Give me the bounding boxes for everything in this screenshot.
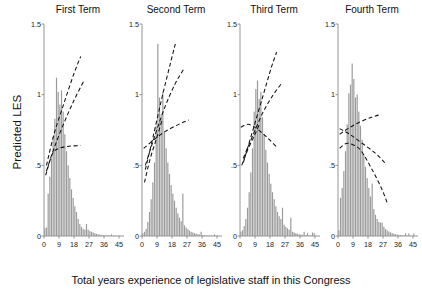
y-tick-label: 1	[126, 90, 139, 99]
x-tick-label: 9	[149, 240, 165, 249]
panel-title: Second Term	[128, 4, 224, 15]
y-tick-label: .5	[126, 161, 139, 170]
x-tick-label: 45	[111, 240, 127, 249]
x-tick-label: 9	[51, 240, 67, 249]
x-axis-label: Total years experience of legislative st…	[0, 274, 422, 286]
panel-title: First Term	[30, 4, 126, 15]
x-tick-label: 18	[66, 240, 82, 249]
x-tick-label: 0	[134, 240, 150, 249]
panel-first-term: First Term 09182736450.511.5	[30, 18, 126, 258]
y-tick-label: 1.5	[224, 20, 237, 29]
x-tick-label: 27	[179, 240, 195, 249]
y-tick-label: .5	[322, 161, 335, 170]
x-tick-label: 0	[330, 240, 346, 249]
x-tick-label: 36	[96, 240, 112, 249]
effect-line-lower-bound	[144, 120, 189, 148]
y-tick-label: 1	[322, 90, 335, 99]
histogram-bars	[44, 78, 120, 236]
x-tick-label: 36	[292, 240, 308, 249]
x-tick-label: 36	[390, 240, 406, 249]
panel-title: Third Term	[226, 4, 322, 15]
x-tick-label: 27	[81, 240, 97, 249]
y-tick-label: 0	[126, 232, 139, 241]
x-tick-label: 45	[307, 240, 323, 249]
panel-third-term: Third Term 09182736450.511.5	[226, 18, 322, 258]
y-tick-label: .5	[224, 161, 237, 170]
y-tick-label: 0	[224, 232, 237, 241]
panel-fourth-term: Fourth Term 09182736450.511.5	[324, 18, 420, 258]
x-tick-label: 27	[375, 240, 391, 249]
y-tick-label: 0	[322, 232, 335, 241]
panel-plot-area	[30, 18, 126, 258]
histogram-bars	[338, 64, 414, 236]
x-tick-label: 18	[164, 240, 180, 249]
y-tick-label: 1	[28, 90, 41, 99]
x-tick-label: 9	[345, 240, 361, 249]
x-tick-label: 36	[194, 240, 210, 249]
panel-second-term: Second Term 09182736450.511.5	[128, 18, 224, 258]
x-tick-label: 45	[209, 240, 225, 249]
y-tick-label: 1.5	[126, 20, 139, 29]
x-tick-label: 0	[36, 240, 52, 249]
y-tick-label: 1	[224, 90, 237, 99]
y-tick-label: 1.5	[28, 20, 41, 29]
x-tick-label: 18	[262, 240, 278, 249]
x-tick-label: 0	[232, 240, 248, 249]
chart-figure: Predicted LES Total years experience of …	[0, 0, 422, 294]
y-tick-label: .5	[28, 161, 41, 170]
panel-plot-area	[226, 18, 322, 258]
x-tick-label: 18	[360, 240, 376, 249]
x-tick-label: 45	[405, 240, 421, 249]
x-tick-label: 9	[247, 240, 263, 249]
panel-plot-area	[324, 18, 420, 258]
x-tick-label: 27	[277, 240, 293, 249]
histogram-bars	[240, 81, 316, 236]
y-axis-label: Predicted LES	[11, 57, 23, 207]
panel-title: Fourth Term	[324, 4, 420, 15]
y-tick-label: 0	[28, 232, 41, 241]
y-tick-label: 1.5	[322, 20, 335, 29]
panel-plot-area	[128, 18, 224, 258]
